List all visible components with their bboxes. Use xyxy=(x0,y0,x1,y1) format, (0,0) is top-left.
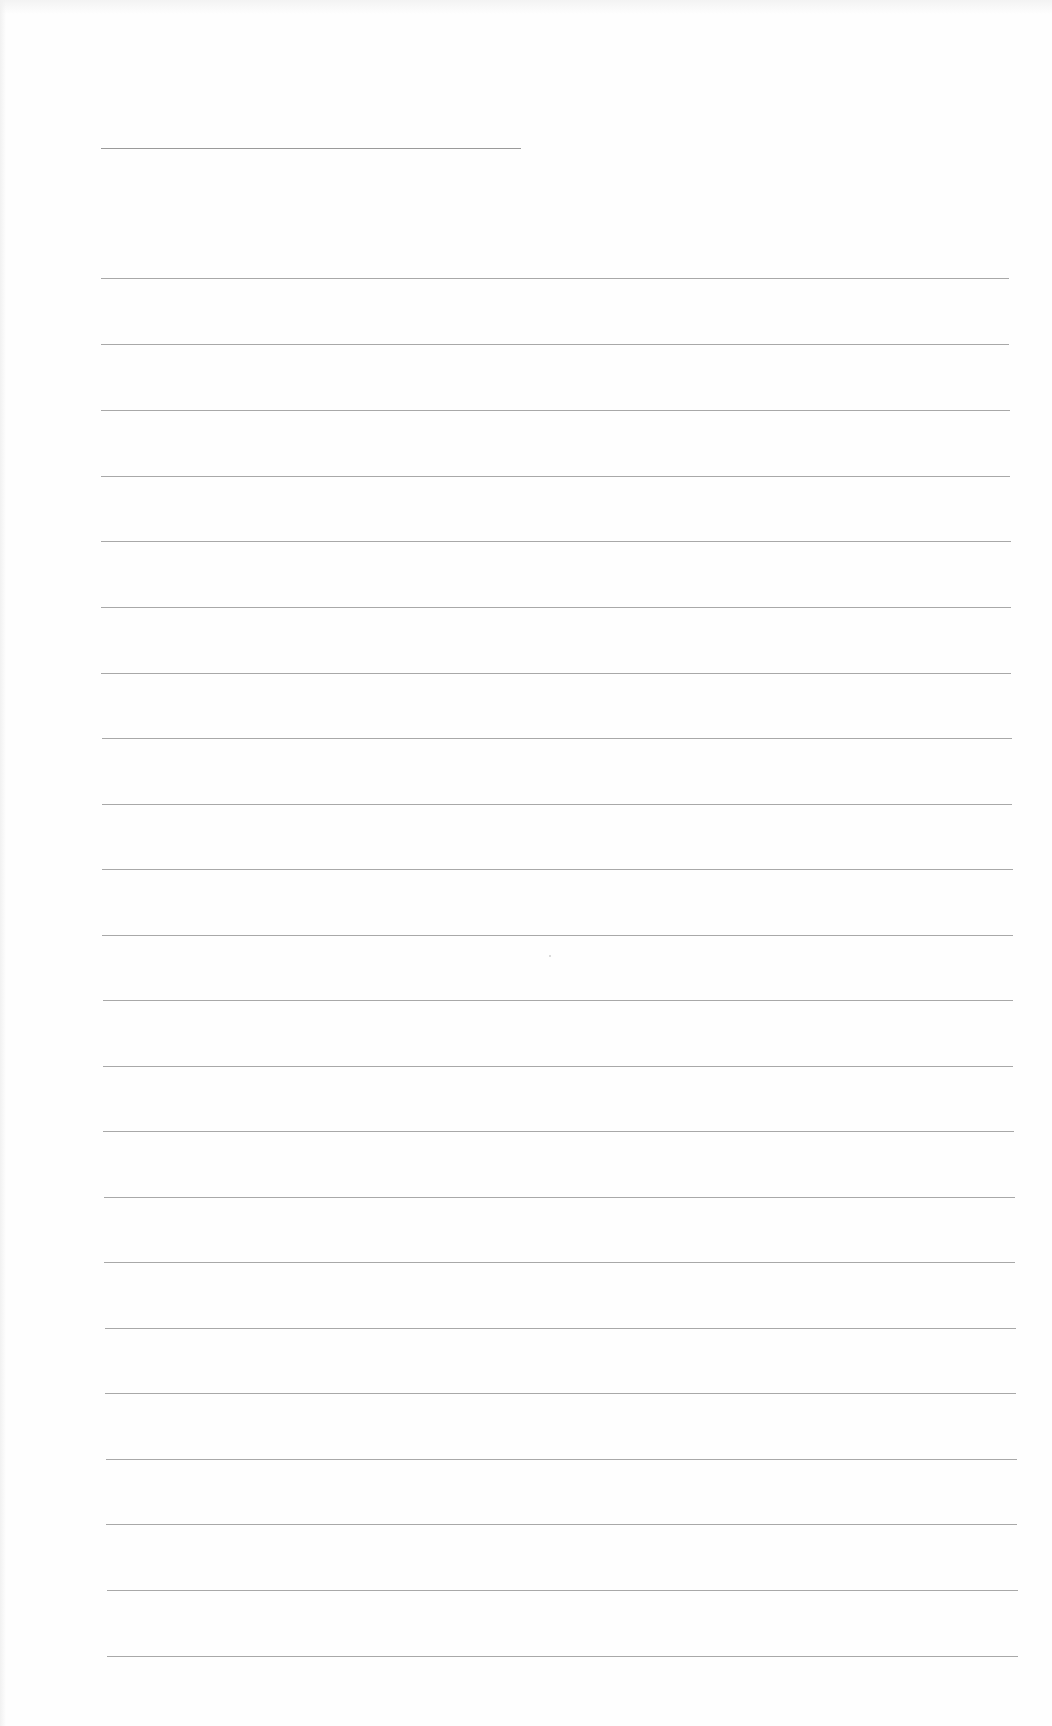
ruled-line xyxy=(101,410,1010,411)
ruled-line xyxy=(101,344,1009,345)
ruled-line xyxy=(102,804,1012,805)
lined-page xyxy=(0,0,1052,1726)
ruled-line xyxy=(102,738,1012,739)
ruled-line xyxy=(103,1000,1013,1001)
scan-speck xyxy=(549,955,551,957)
ruled-line xyxy=(101,476,1010,477)
ruled-line xyxy=(105,1393,1016,1394)
ruled-line xyxy=(102,869,1013,870)
ruled-line xyxy=(107,1656,1018,1657)
ruled-line xyxy=(101,607,1011,608)
ruled-line xyxy=(107,1590,1018,1591)
ruled-line xyxy=(105,1328,1016,1329)
ruled-line xyxy=(106,1524,1017,1525)
ruled-line xyxy=(104,1197,1015,1198)
scan-shadow-top xyxy=(0,0,1052,14)
ruled-line xyxy=(104,1262,1015,1263)
ruled-line xyxy=(103,1066,1013,1067)
ruled-line xyxy=(106,1459,1017,1460)
ruled-line xyxy=(102,935,1013,936)
title-line xyxy=(101,148,521,149)
ruled-line xyxy=(101,673,1011,674)
ruled-line xyxy=(101,278,1009,279)
ruled-line xyxy=(101,541,1011,542)
scan-shadow-left xyxy=(0,0,6,1726)
ruled-line xyxy=(103,1131,1014,1132)
